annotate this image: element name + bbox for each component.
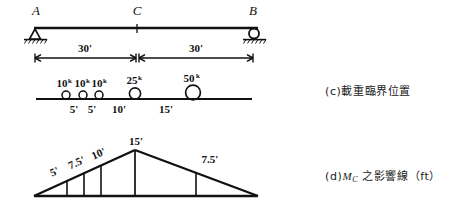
beam-label-A: A (31, 3, 40, 18)
load-unit-2: k (86, 77, 90, 85)
beam-diagram: A C B (24, 3, 266, 63)
load-unit-1: k (68, 77, 72, 85)
load-unit-5: k (196, 72, 200, 80)
beam-label-C: C (133, 3, 142, 18)
dimension-label-left: 30' (78, 42, 92, 54)
figure-page: A C B (0, 0, 472, 210)
caption-d-symbol: M (342, 170, 352, 182)
load-label-1: 10 (57, 77, 69, 89)
ordinate-label-apex: 15' (129, 135, 143, 147)
load-spacing-3: 10' (112, 103, 126, 115)
load-wheel-2: 10 k (75, 77, 91, 99)
caption-c: (c)載重臨界位置 (325, 82, 411, 98)
load-spacing-2: 5' (88, 103, 97, 115)
ordinate-label-left-3: 10' (90, 145, 108, 162)
dimension-label-right: 30' (189, 42, 203, 54)
load-wheel-3: 10 k (92, 77, 108, 99)
load-spacing-1: 5' (70, 103, 79, 115)
caption-d: (d)MC 之影響線（ft） (325, 167, 441, 184)
load-wheel-1: 10 k (57, 77, 73, 99)
load-label-5: 50 (184, 72, 196, 84)
load-wheel-4: 25 k (127, 74, 143, 99)
load-train-diagram: 10 k 10 k 10 k 25 k (36, 72, 252, 115)
roller-support-icon (243, 29, 266, 44)
influence-line-diagram: 5' 7.5' 10' 15' 7.5' (34, 135, 258, 196)
beam-label-B: B (249, 3, 257, 18)
ordinate-label-left-1: 5' (48, 164, 61, 178)
load-label-3: 10 (92, 77, 104, 89)
load-label-2: 10 (75, 77, 87, 89)
ordinate-label-left-2: 7.5' (66, 153, 86, 171)
load-label-4: 25 (127, 74, 139, 86)
caption-d-tag: (d) (325, 170, 342, 183)
load-unit-4: k (138, 74, 142, 82)
caption-d-text: 之影響線（ft） (358, 170, 441, 183)
dimension-span-right: 30' (139, 42, 253, 63)
load-spacing-4: 15' (159, 103, 173, 115)
load-unit-3: k (103, 77, 107, 85)
pin-support-icon (24, 29, 47, 44)
dimension-span-left: 30' (35, 42, 136, 63)
load-wheel-5: 50 k (184, 72, 201, 100)
ordinate-label-right-1: 7.5' (202, 153, 219, 165)
caption-c-text: (c)載重臨界位置 (325, 85, 411, 98)
